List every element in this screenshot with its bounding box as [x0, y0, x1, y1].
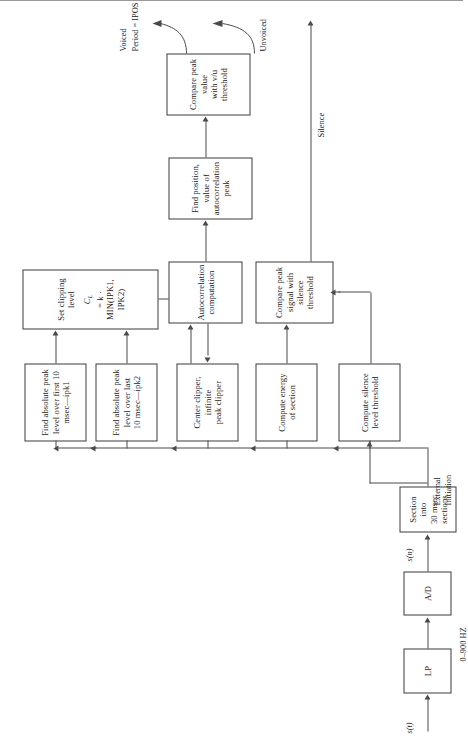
block-silence-threshold: Compute silence level threshold: [338, 363, 400, 441]
label-silence: Silence: [316, 112, 326, 137]
arrowhead-peak-last-clip: [123, 330, 129, 335]
connector-bus-2: [126, 440, 127, 448]
label-bandwidth: 0–900 HZ: [458, 627, 468, 661]
arrowhead-autocorr-findpeak: [202, 220, 208, 225]
label-external-initiation-line1: External: [432, 477, 442, 505]
arrowhead-silence-output: [307, 20, 313, 25]
block-compare-silence-line1: Compare peak signal with: [273, 264, 294, 320]
block-ad-line1: A/D: [422, 585, 432, 600]
block-find-peak: Find position, value of autocorrelation …: [168, 157, 252, 219]
arrowhead-ad-section: [424, 534, 430, 539]
block-peak-last-line2: level over last: [121, 369, 131, 436]
block-ad: A/D: [403, 571, 451, 615]
arrowhead-clip-clipper: [204, 357, 210, 362]
arrowhead-lp-ad: [424, 617, 430, 622]
arrowhead-input-lp: [424, 694, 430, 699]
label-unvoiced: Unvoiced: [258, 18, 268, 51]
block-clip-level-line1: Set clipping: [55, 272, 65, 326]
label-voiced: Voiced: [118, 28, 128, 51]
wire-silence-output: [310, 23, 311, 261]
wire-autocorr-findpeak: [205, 223, 206, 261]
block-autocorrelation: Autocorrelation computation: [168, 261, 242, 323]
block-energy: Compute energy of section: [255, 363, 317, 441]
arrowhead-external-silence: [366, 441, 372, 446]
wire-silthresh-riser: [338, 291, 370, 292]
block-compare-silence-line2: silence threshold: [294, 264, 315, 320]
wire-findpeak-comparevu: [205, 119, 206, 157]
wire-external-horizontal: [369, 441, 370, 483]
block-peak-first-line2: level over first 10: [50, 369, 60, 436]
block-silence-threshold-line1: Compute silence: [359, 372, 369, 431]
block-peak-first-line3: msec—ipk1: [60, 369, 70, 436]
arrowhead-findpeak-comparevu: [202, 116, 208, 121]
block-center-clipper-line1: Center clipper, infinite: [191, 366, 212, 438]
block-peak-last: Find absolute peak level over last 10 ms…: [95, 363, 157, 441]
block-clip-level-line2: level: [65, 272, 75, 326]
block-energy-line1: Compute energy: [276, 373, 286, 431]
block-compare-vu: Compare peak value with v/u threshold: [166, 53, 250, 115]
label-period: Period = IPOS: [130, 2, 140, 51]
block-peak-first-line1: Find absolute peak: [39, 369, 49, 436]
wire-peak-last-clip: [126, 333, 127, 363]
label-sampled-signal: s(n): [404, 548, 414, 561]
wire-lp-ad: [427, 620, 428, 648]
wire-ad-section: [427, 537, 428, 571]
label-input-signal: s(t): [404, 722, 414, 733]
block-find-peak-line2: autocorrelation peak: [210, 160, 231, 216]
block-peak-first: Find absolute peak level over first 10 m…: [24, 363, 86, 441]
block-energy-line2: of section: [286, 373, 296, 431]
arrowhead-bus-energy: [250, 445, 255, 451]
block-autocorrelation-line2: computation: [205, 264, 215, 320]
wire-section-bus: [427, 448, 428, 486]
arrowhead-bus-silence-threshold: [333, 445, 338, 451]
wire-bus-vertical: [58, 447, 428, 448]
block-lp-line1: LP: [422, 665, 432, 675]
block-find-peak-line1: Find position, value of: [189, 160, 210, 216]
connector-bus-4: [286, 440, 287, 448]
block-clip-level: Set clipping level CL = k · MIN(IPK1, IP…: [22, 269, 158, 329]
arrowhead-bus-center-clipper: [171, 445, 176, 451]
block-autocorrelation-line1: Autocorrelation: [195, 264, 205, 320]
block-compare-vu-line1: Compare peak value: [187, 56, 208, 112]
block-clip-level-formula: CL = k · MIN(IPK1, IPK2): [81, 272, 125, 326]
block-compare-vu-line2: with v/u threshold: [208, 56, 229, 112]
block-silence-threshold-line2: level threshold: [369, 372, 379, 431]
block-center-clipper: Center clipper, infinite peak clipper: [176, 363, 238, 441]
wire-clipper-autocorr: [190, 327, 191, 363]
wire-peak-first-clip: [55, 333, 56, 363]
wire-input-to-lp: [427, 697, 428, 731]
wire-energy-compare-sil: [286, 327, 287, 363]
block-compare-silence: Compare peak signal with silence thresho…: [255, 261, 333, 323]
block-lp: LP: [403, 648, 451, 693]
connector-bus-1: [55, 440, 56, 448]
wire-external-vertical: [369, 482, 427, 483]
stub-bus-peak-last: [90, 447, 96, 448]
arrowhead-energy-compare-sil: [283, 324, 289, 329]
block-peak-last-line3: 10 msec—ipk2: [131, 369, 141, 436]
label-external-initiation-line2: Initiation: [443, 474, 453, 505]
block-peak-last-line1: Find absolute peak: [110, 369, 120, 436]
wire-silthresh-from-block: [370, 292, 371, 363]
block-center-clipper-line2: peak clipper: [212, 366, 222, 438]
arrowhead-peak-first-clip: [52, 330, 58, 335]
arrowhead-silthresh-compare: [330, 289, 335, 295]
arrowhead-clipper-autocorr: [187, 324, 193, 329]
block-section-line1: Section into: [407, 489, 428, 529]
curve-voiced-output: [150, 7, 196, 53]
connector-bus-3: [207, 440, 208, 448]
